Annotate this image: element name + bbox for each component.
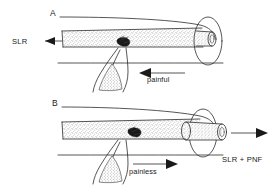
panel-b-letter: B <box>52 98 58 108</box>
panel-a: A <box>12 8 223 92</box>
slr-label-a: SLR <box>12 37 28 46</box>
slr-pnf-arrow <box>231 128 268 138</box>
slr-pnf-arrow-head <box>256 128 268 138</box>
slr-arrow-a <box>45 37 62 45</box>
panel-a-letter: A <box>50 8 56 18</box>
painless-arrow-head <box>166 159 178 169</box>
slr-pnf-label: SLR + PNF <box>222 155 263 164</box>
nerve-root-posterior-b <box>123 140 128 184</box>
figure-root: A <box>0 0 277 185</box>
panel-b: B <box>52 98 268 184</box>
nerve-root-posterior-a <box>123 48 128 92</box>
dorsal-root-ganglion-b <box>99 156 122 183</box>
slr-arrow-head-a <box>45 37 55 45</box>
painful-label: painful <box>147 75 170 84</box>
inner-nerve-fill-b <box>186 122 222 140</box>
nerve-diagram: A <box>0 0 277 185</box>
painless-label: painless <box>129 167 157 176</box>
dorsal-root-ganglion-a <box>99 64 122 91</box>
